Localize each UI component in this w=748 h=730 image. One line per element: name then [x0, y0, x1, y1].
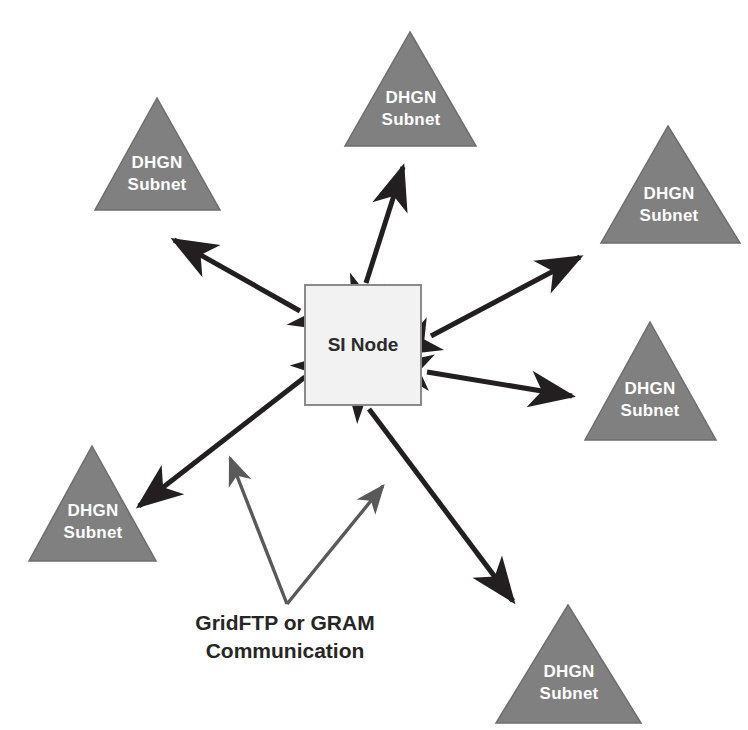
callout-right-arrow [287, 486, 383, 604]
link-top-right[interactable] [431, 257, 580, 336]
subnet-right-middle[interactable]: DHGN Subnet [585, 322, 716, 440]
diagram-canvas: DHGN Subnet DHGN Subnet DHGN Subnet DHGN… [0, 0, 748, 730]
callout-left-arrow [230, 458, 287, 604]
subnet-top-left[interactable]: DHGN Subnet [95, 98, 220, 210]
link-top-center[interactable] [366, 167, 403, 283]
link-bottom-center[interactable] [369, 409, 513, 601]
subnet-label-line1: DHGN [644, 184, 695, 203]
subnet-top-right[interactable]: DHGN Subnet [601, 126, 740, 243]
network-diagram: DHGN Subnet DHGN Subnet DHGN Subnet DHGN… [0, 0, 748, 730]
subnet-label-line2: Subnet [128, 175, 187, 194]
link-right-middle[interactable] [427, 372, 572, 396]
subnet-label-line2: Subnet [621, 401, 680, 420]
si-node[interactable]: SI Node [305, 285, 421, 405]
subnet-label-line1: DHGN [544, 662, 595, 681]
subnet-bottom-center[interactable]: DHGN Subnet [496, 605, 641, 723]
subnet-top-center[interactable]: DHGN Subnet [345, 32, 476, 146]
subnet-label-line1: DHGN [132, 153, 183, 172]
subnet-bottom-left[interactable]: DHGN Subnet [29, 446, 156, 561]
subnet-label-line1: DHGN [68, 501, 119, 520]
subnet-label-line2: Subnet [64, 523, 123, 542]
subnet-label-line2: Subnet [382, 110, 441, 129]
subnet-label-line1: DHGN [386, 88, 437, 107]
link-top-left[interactable] [174, 240, 300, 311]
si-node-label: SI Node [328, 334, 399, 355]
caption-line1: GridFTP or GRAM [195, 611, 374, 634]
caption-line2: Communication [206, 639, 365, 662]
caption: GridFTP or GRAM Communication [195, 611, 374, 662]
link-bottom-left[interactable] [139, 377, 305, 506]
subnet-label-line1: DHGN [625, 379, 676, 398]
subnet-label-line2: Subnet [540, 684, 599, 703]
callout-arrows [230, 458, 383, 604]
subnet-label-line2: Subnet [640, 206, 699, 225]
